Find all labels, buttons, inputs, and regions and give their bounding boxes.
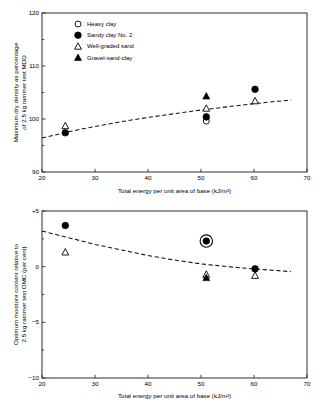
bottom-y-axis-label-line1: Optimum moisture content relative to — [12, 243, 19, 345]
top-y-axis-label-line2: of 2.5 kg rammer test MDD — [20, 55, 27, 130]
y-tick-label: −10 — [29, 374, 40, 381]
bottom-chart-svg: 203040506070+50−5−10 Total energy per un… — [0, 200, 323, 410]
x-tick-label: 20 — [39, 174, 46, 181]
top-chart-background — [0, 0, 323, 205]
x-tick-label: 70 — [304, 174, 311, 181]
y-tick-label: 110 — [29, 62, 39, 69]
legend-label: Gravel-sand-clay — [87, 55, 132, 61]
x-tick-label: 30 — [92, 380, 99, 387]
chart-panel-top: 20304050607090100110120 Heavy claySandy … — [0, 0, 323, 205]
top-y-axis-label-line1: Maximum dry density as percentage — [12, 42, 19, 142]
y-tick-label: 120 — [29, 9, 40, 16]
data-point-filled-circle — [203, 114, 210, 121]
x-tick-label: 50 — [198, 380, 205, 387]
legend-marker-filled-circle — [75, 32, 82, 39]
x-tick-label: 20 — [39, 380, 46, 387]
y-tick-label: −5 — [32, 318, 40, 325]
top-x-axis-label: Total energy per unit area of base (kJ/m… — [118, 187, 231, 194]
bottom-y-axis-label-line2: 2.5 kg rammer test OMC (per cent) — [20, 247, 27, 343]
y-tick-label: 90 — [32, 168, 39, 175]
legend-label: Sandy clay No. 2 — [87, 32, 133, 38]
figure-page: 20304050607090100110120 Heavy claySandy … — [0, 0, 323, 410]
x-tick-label: 40 — [145, 380, 152, 387]
x-tick-label: 30 — [92, 174, 99, 181]
x-tick-label: 60 — [251, 380, 258, 387]
x-tick-label: 40 — [145, 174, 152, 181]
bottom-x-axis-label: Total energy per unit area of base (kJ/m… — [118, 392, 231, 399]
data-point-filled-circle — [62, 129, 69, 136]
bottom-chart-background — [0, 200, 323, 410]
y-tick-label: 100 — [29, 115, 40, 122]
top-chart-svg: 20304050607090100110120 Heavy claySandy … — [0, 0, 323, 205]
y-tick-label: +5 — [32, 207, 40, 214]
legend-label: Well-graded sand — [87, 43, 134, 49]
data-point-filled-circle — [203, 238, 210, 245]
y-tick-label: 0 — [36, 263, 40, 270]
chart-panel-bottom: 203040506070+50−5−10 Total energy per un… — [0, 200, 323, 410]
legend-marker-open-circle — [75, 21, 81, 27]
legend-label: Heavy clay — [87, 21, 116, 27]
data-point-filled-circle — [62, 222, 69, 229]
x-tick-label: 50 — [198, 174, 205, 181]
x-tick-label: 70 — [304, 380, 311, 387]
data-point-filled-circle — [252, 86, 259, 93]
x-tick-label: 60 — [251, 174, 258, 181]
